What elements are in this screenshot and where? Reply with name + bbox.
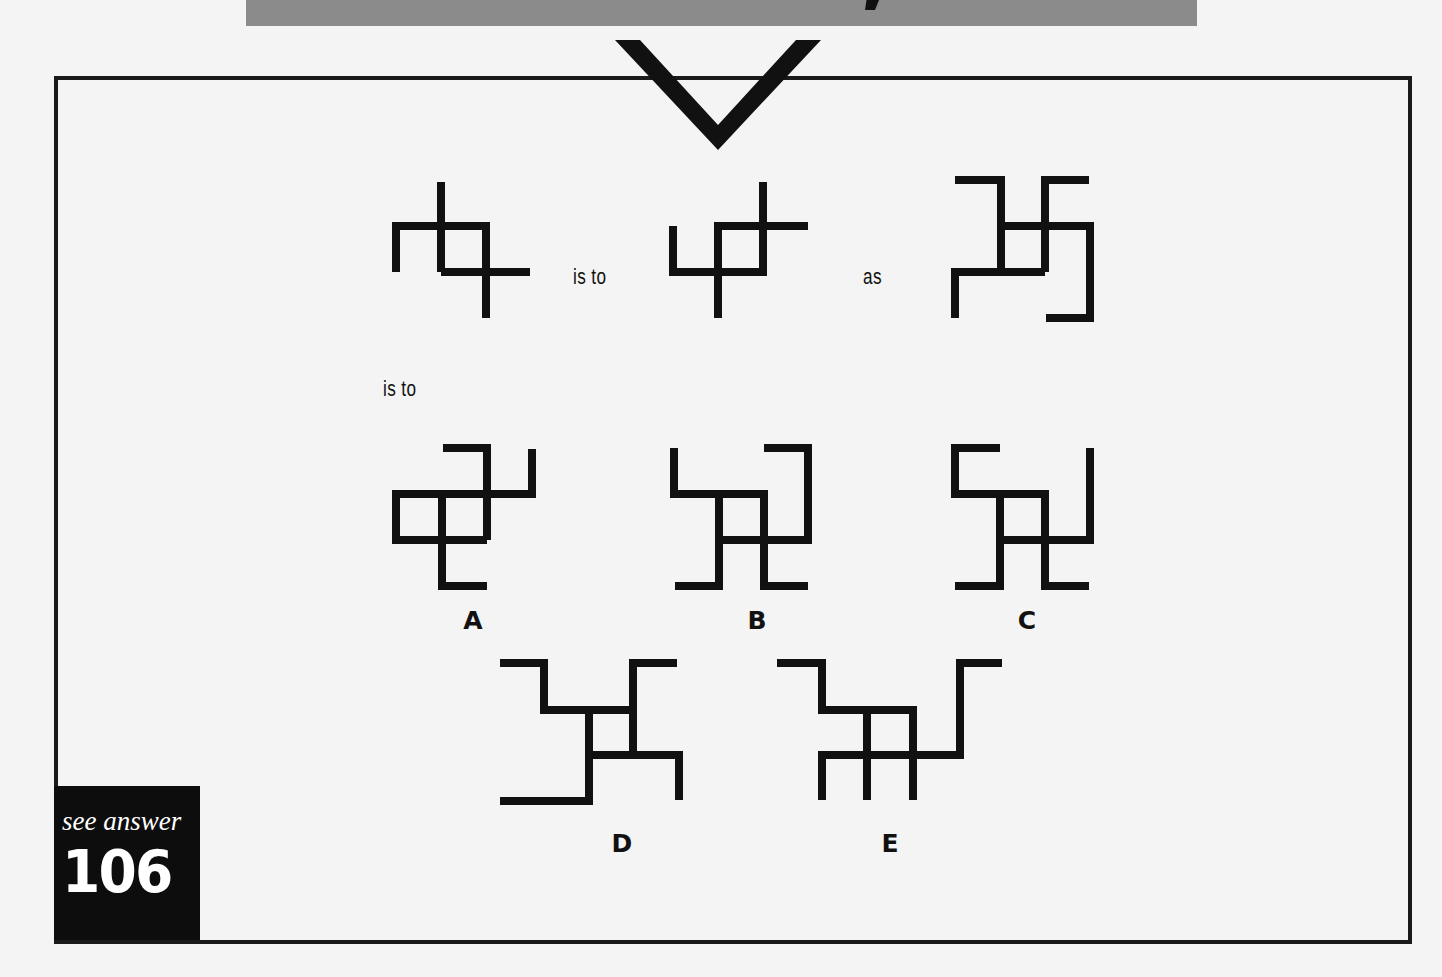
connector-as: as xyxy=(863,264,882,290)
pointer-chevron-icon xyxy=(615,40,821,150)
option-b-figure xyxy=(674,448,808,586)
figure-1 xyxy=(396,182,530,318)
option-a-label[interactable]: A xyxy=(453,606,493,635)
option-d-figure xyxy=(500,663,679,801)
option-c-label[interactable]: C xyxy=(1007,606,1047,635)
figure-2 xyxy=(673,182,808,318)
option-e-label[interactable]: E xyxy=(870,829,910,858)
connector-is-to-2: is to xyxy=(383,376,416,402)
option-b-label[interactable]: B xyxy=(737,606,777,635)
option-a-figure xyxy=(396,448,532,586)
see-answer-box[interactable]: see answer 106 xyxy=(54,786,200,940)
option-d-label[interactable]: D xyxy=(602,829,642,858)
figure-3 xyxy=(955,180,1090,318)
option-c-figure xyxy=(955,448,1090,586)
see-answer-text: see answer xyxy=(62,806,181,837)
connector-is-to: is to xyxy=(573,264,606,290)
option-e-figure xyxy=(777,663,1002,800)
answer-number: 106 xyxy=(62,838,171,906)
puzzle-figures xyxy=(0,0,1442,977)
